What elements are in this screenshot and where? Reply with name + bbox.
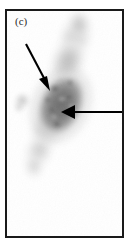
panel-frame: (c) xyxy=(5,9,124,238)
cell-micrograph xyxy=(7,11,122,236)
micrograph-canvas xyxy=(7,11,122,236)
figure-panel-c: (c) xyxy=(0,0,133,248)
film-grain xyxy=(7,11,122,236)
panel-label: (c) xyxy=(15,16,27,27)
